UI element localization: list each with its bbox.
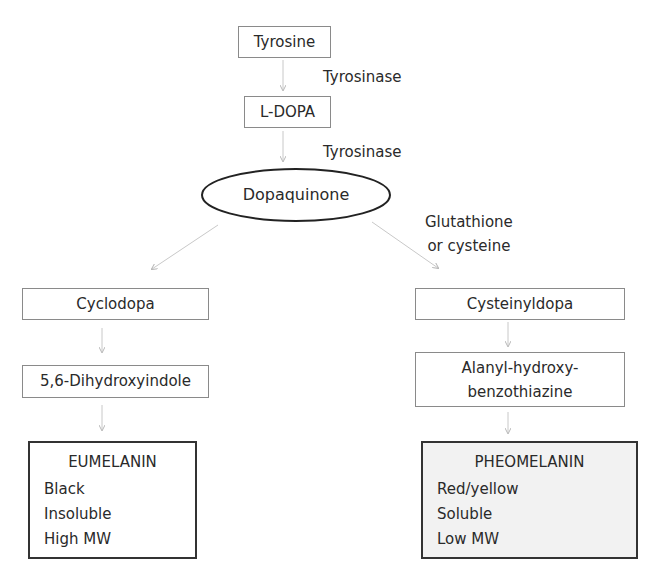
eumelanin-title: EUMELANIN (44, 451, 195, 473)
node-cyclodopa-label: Cyclodopa (76, 295, 154, 314)
node-cyclodopa: Cyclodopa (22, 288, 209, 320)
product-pheomelanin: PHEOMELANIN Red/yellow Soluble Low MW (421, 441, 638, 559)
node-tyrosine-label: Tyrosine (254, 33, 315, 52)
node-dihydroxyindole-label: 5,6-Dihydroxyindole (40, 372, 191, 391)
node-dopaquinone-label: Dopaquinone (243, 185, 350, 204)
edge-label-tyrosinase-2: Tyrosinase (323, 143, 401, 162)
eumelanin-property-color: Black (44, 477, 195, 502)
pheomelanin-property-solubility: Soluble (437, 502, 636, 527)
pheomelanin-property-weight: Low MW (437, 527, 636, 552)
product-eumelanin: EUMELANIN Black Insoluble High MW (28, 441, 197, 559)
node-alanyl-hydroxy-benzothiazine: Alanyl-hydroxy- benzothiazine (415, 352, 625, 407)
node-tyrosine: Tyrosine (238, 26, 331, 58)
node-dopaquinone: Dopaquinone (202, 167, 390, 222)
edge-label-glutathione-line1: Glutathione (425, 210, 513, 234)
edge-label-glutathione-line2: or cysteine (425, 234, 513, 258)
node-l-dopa-label: L-DOPA (260, 103, 315, 122)
node-dihydroxyindole: 5,6-Dihydroxyindole (22, 365, 209, 398)
eumelanin-property-weight: High MW (44, 527, 195, 552)
pheomelanin-property-color: Red/yellow (437, 477, 636, 502)
node-alanyl-line2: benzothiazine (468, 380, 573, 404)
node-cysteinyldopa-label: Cysteinyldopa (467, 295, 573, 314)
pheomelanin-title: PHEOMELANIN (437, 451, 636, 473)
node-cysteinyldopa: Cysteinyldopa (415, 288, 625, 320)
edge-label-glutathione-or-cysteine: Glutathione or cysteine (425, 210, 513, 258)
edge-label-tyrosinase-1: Tyrosinase (323, 68, 401, 87)
node-l-dopa: L-DOPA (244, 96, 331, 128)
arrow-dopaquinone-to-cyclodopa (152, 225, 218, 269)
node-alanyl-line1: Alanyl-hydroxy- (462, 356, 579, 380)
eumelanin-property-solubility: Insoluble (44, 502, 195, 527)
